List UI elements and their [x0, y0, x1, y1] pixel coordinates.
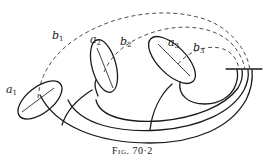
label-b2-base: b: [120, 35, 127, 48]
label-a1: a1: [6, 84, 17, 97]
label-b2-sub: 2: [127, 41, 131, 49]
label-b1-sub: 1: [59, 35, 63, 43]
label-b3: b3: [193, 42, 205, 55]
a3-lower-loop-curve: [180, 70, 238, 104]
label-b1-base: b: [52, 29, 59, 42]
label-a3-sub: 3: [175, 42, 179, 50]
label-a1-sub: 1: [13, 89, 17, 97]
figure-caption: Fig. 70·2: [112, 145, 153, 156]
caption-number: 70·2: [132, 145, 152, 156]
label-b3-base: b: [193, 41, 200, 54]
label-a2-sub: 2: [97, 39, 101, 47]
a2-axis-segment: [97, 48, 113, 88]
surface-diagram: [0, 0, 269, 160]
connector-bottom-a3: [150, 84, 172, 130]
dashed-curve-b1: [38, 13, 250, 98]
label-a2: a2: [90, 34, 101, 47]
label-b1: b1: [52, 30, 64, 43]
dashed-curve-b3: [178, 47, 239, 70]
label-b3-sub: 3: [200, 47, 204, 55]
label-b2: b2: [120, 36, 132, 49]
label-a3: a3: [168, 37, 179, 50]
figure-70-2: a1 a2 a3 b1 b2 b3 Fig. 70·2: [0, 0, 269, 160]
caption-prefix: Fig.: [112, 145, 129, 156]
